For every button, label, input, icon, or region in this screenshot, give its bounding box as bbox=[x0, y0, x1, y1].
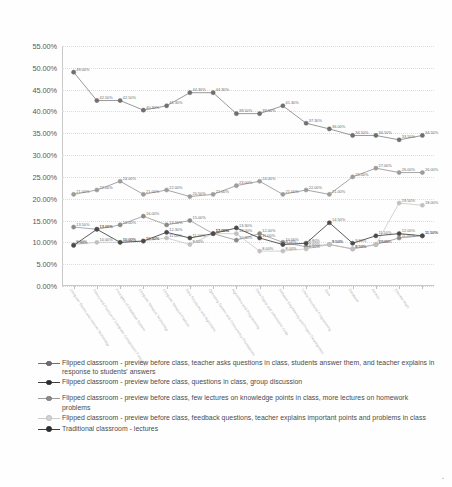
data-point[interactable] bbox=[327, 127, 331, 131]
x-axis-labels: Computer Basics and Internet TechnologyT… bbox=[62, 288, 434, 350]
data-point[interactable] bbox=[351, 175, 355, 179]
data-point[interactable] bbox=[165, 236, 169, 240]
data-point[interactable] bbox=[165, 230, 169, 234]
data-point-label: 13.50% bbox=[76, 222, 90, 227]
data-point-label: 8.00% bbox=[262, 246, 274, 251]
data-point[interactable] bbox=[281, 242, 285, 246]
data-point[interactable] bbox=[420, 170, 424, 174]
data-point-label: 41.30% bbox=[285, 100, 299, 105]
data-point[interactable] bbox=[141, 108, 145, 112]
data-point[interactable] bbox=[72, 70, 76, 74]
data-point[interactable] bbox=[258, 249, 262, 253]
data-point[interactable] bbox=[374, 133, 378, 137]
data-point[interactable] bbox=[188, 91, 192, 95]
series-line bbox=[74, 72, 423, 140]
data-point[interactable] bbox=[165, 223, 169, 227]
y-axis-tick-label: 25.00% bbox=[33, 172, 57, 181]
data-point[interactable] bbox=[420, 203, 424, 207]
data-point[interactable] bbox=[118, 98, 122, 102]
data-point-label: 37.30% bbox=[309, 118, 323, 123]
data-point[interactable] bbox=[211, 91, 215, 95]
data-point[interactable] bbox=[234, 238, 238, 242]
data-point-label: 11.50% bbox=[425, 230, 438, 235]
data-point[interactable] bbox=[258, 112, 262, 116]
legend-item[interactable]: Traditional classroom - lectures bbox=[38, 424, 436, 434]
data-point[interactable] bbox=[397, 201, 401, 205]
data-point[interactable] bbox=[374, 166, 378, 170]
data-point[interactable] bbox=[258, 232, 262, 236]
data-point-label: 44.30% bbox=[216, 87, 230, 92]
data-point-label: 8.50% bbox=[355, 244, 367, 249]
data-point[interactable] bbox=[397, 170, 401, 174]
data-point[interactable] bbox=[420, 234, 424, 238]
legend-item[interactable]: Flipped classroom - preview before class… bbox=[38, 358, 436, 376]
data-point[interactable] bbox=[397, 138, 401, 142]
data-point[interactable] bbox=[72, 192, 76, 196]
data-point[interactable] bbox=[304, 121, 308, 125]
data-point[interactable] bbox=[304, 241, 308, 245]
data-point-label: 39.50% bbox=[262, 108, 276, 113]
data-point[interactable] bbox=[281, 249, 285, 253]
data-point[interactable] bbox=[327, 192, 331, 196]
legend-marker-icon bbox=[38, 394, 62, 403]
legend-item[interactable]: Flipped classroom - preview before class… bbox=[38, 377, 436, 387]
data-point[interactable] bbox=[234, 112, 238, 116]
data-point-label: 8.00% bbox=[285, 246, 297, 251]
data-point-label: 22.00% bbox=[169, 185, 183, 190]
data-point[interactable] bbox=[95, 188, 99, 192]
data-point[interactable] bbox=[397, 232, 401, 236]
data-point[interactable] bbox=[258, 236, 262, 240]
data-point-label: 20.50% bbox=[192, 191, 206, 196]
data-point-label: 44.30% bbox=[192, 87, 206, 92]
data-point[interactable] bbox=[234, 226, 238, 230]
data-point[interactable] bbox=[304, 188, 308, 192]
data-point[interactable] bbox=[374, 242, 378, 246]
data-point[interactable] bbox=[281, 192, 285, 196]
data-point[interactable] bbox=[188, 218, 192, 222]
data-point[interactable] bbox=[327, 221, 331, 225]
legend-item[interactable]: Flipped classroom - preview before class… bbox=[38, 393, 436, 411]
y-axis-tick-label: 30.00% bbox=[33, 151, 57, 160]
data-point[interactable] bbox=[95, 240, 99, 244]
data-point[interactable] bbox=[234, 232, 238, 236]
data-point[interactable] bbox=[281, 104, 285, 108]
data-point[interactable] bbox=[118, 223, 122, 227]
data-point[interactable] bbox=[397, 236, 401, 240]
data-point[interactable] bbox=[188, 242, 192, 246]
chart-legend: Flipped classroom - preview before class… bbox=[38, 358, 436, 435]
legend-label: Flipped classroom - preview before class… bbox=[62, 413, 426, 422]
legend-item[interactable]: Flipped classroom - preview before class… bbox=[38, 413, 436, 423]
data-point[interactable] bbox=[118, 179, 122, 183]
data-point[interactable] bbox=[234, 184, 238, 188]
data-point-label: 13.00% bbox=[99, 224, 113, 229]
data-point[interactable] bbox=[141, 214, 145, 218]
plot-area: 0.00%5.00%10.00%15.00%20.00%25.00%30.00%… bbox=[62, 46, 434, 286]
data-point[interactable] bbox=[327, 242, 331, 246]
y-axis-tick-label: 20.00% bbox=[33, 194, 57, 203]
data-point[interactable] bbox=[95, 98, 99, 102]
data-point[interactable] bbox=[211, 232, 215, 236]
data-point[interactable] bbox=[188, 194, 192, 198]
data-point[interactable] bbox=[374, 234, 378, 238]
data-point-label: 9.50% bbox=[332, 239, 344, 244]
data-point[interactable] bbox=[351, 133, 355, 137]
data-point[interactable] bbox=[304, 247, 308, 251]
data-point[interactable] bbox=[141, 239, 145, 243]
y-axis-tick-label: 10.00% bbox=[33, 238, 57, 247]
data-point[interactable] bbox=[141, 192, 145, 196]
data-point[interactable] bbox=[420, 133, 424, 137]
data-point[interactable] bbox=[118, 240, 122, 244]
data-point[interactable] bbox=[351, 247, 355, 251]
data-point[interactable] bbox=[211, 192, 215, 196]
data-point[interactable] bbox=[72, 243, 76, 247]
chart-figure: 0.00%5.00%10.00%15.00%20.00%25.00%30.00%… bbox=[0, 0, 452, 487]
data-point-label: 21.00% bbox=[216, 189, 230, 194]
data-point[interactable] bbox=[188, 236, 192, 240]
data-point[interactable] bbox=[165, 104, 169, 108]
data-point[interactable] bbox=[165, 188, 169, 192]
data-point[interactable] bbox=[95, 227, 99, 231]
data-point[interactable] bbox=[258, 179, 262, 183]
data-point[interactable] bbox=[72, 225, 76, 229]
data-point-label: 19.00% bbox=[378, 239, 392, 244]
data-point[interactable] bbox=[351, 241, 355, 245]
